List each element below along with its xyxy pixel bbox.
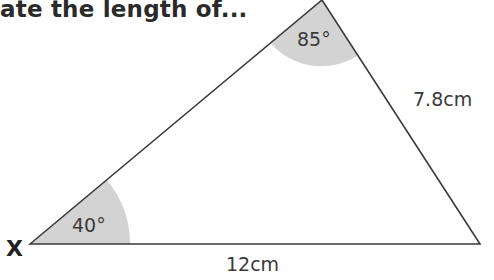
triangle-diagram <box>0 0 494 280</box>
angle-label-85: 85° <box>297 28 331 50</box>
vertex-label-x: X <box>6 236 23 261</box>
side-label-right: 7.8cm <box>413 88 472 110</box>
side-label-bottom: 12cm <box>226 253 279 275</box>
angle-label-40: 40° <box>72 214 106 236</box>
